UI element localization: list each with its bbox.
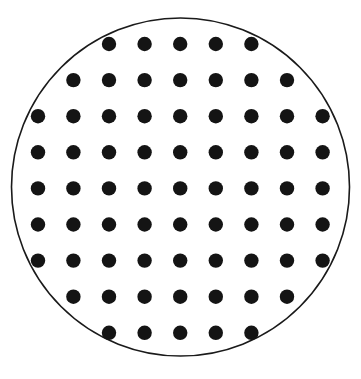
- grid-dot: [102, 145, 116, 159]
- grid-dot: [173, 253, 187, 267]
- figure-canvas: [0, 0, 361, 379]
- grid-dot: [173, 181, 187, 195]
- grid-dot: [209, 73, 223, 87]
- grid-dot: [66, 145, 80, 159]
- grid-dot: [31, 253, 45, 267]
- grid-dot: [315, 253, 329, 267]
- grid-dot: [315, 109, 329, 123]
- grid-dot: [137, 73, 151, 87]
- grid-dot: [209, 145, 223, 159]
- grid-dot: [102, 37, 116, 51]
- grid-dot: [244, 37, 258, 51]
- grid-dot: [209, 217, 223, 231]
- grid-dot: [31, 109, 45, 123]
- grid-dot: [102, 181, 116, 195]
- grid-dot: [280, 109, 294, 123]
- grid-dot: [173, 37, 187, 51]
- grid-dot: [102, 290, 116, 304]
- grid-dot: [209, 326, 223, 340]
- grid-dot: [31, 217, 45, 231]
- grid-dot: [173, 326, 187, 340]
- grid-dot: [102, 253, 116, 267]
- grid-dot: [31, 181, 45, 195]
- grid-dot: [315, 181, 329, 195]
- grid-dot: [137, 145, 151, 159]
- grid-dot: [280, 253, 294, 267]
- grid-dot: [137, 181, 151, 195]
- grid-dot: [280, 290, 294, 304]
- grid-dot: [31, 145, 45, 159]
- grid-dot: [66, 217, 80, 231]
- grid-dot: [209, 109, 223, 123]
- grid-dot: [244, 217, 258, 231]
- grid-dot: [280, 145, 294, 159]
- grid-dot: [244, 181, 258, 195]
- grid-dot: [66, 181, 80, 195]
- grid-dot: [280, 217, 294, 231]
- grid-dot: [102, 73, 116, 87]
- grid-dot: [102, 217, 116, 231]
- grid-dot: [315, 145, 329, 159]
- grid-dot: [280, 181, 294, 195]
- grid-dot: [66, 253, 80, 267]
- wafer-dot-grid-diagram: [0, 0, 361, 379]
- dot-grid-layer: [31, 37, 330, 340]
- grid-dot: [280, 73, 294, 87]
- grid-dot: [173, 290, 187, 304]
- grid-dot: [173, 145, 187, 159]
- grid-dot: [244, 326, 258, 340]
- grid-dot: [173, 217, 187, 231]
- grid-dot: [137, 326, 151, 340]
- grid-dot: [244, 145, 258, 159]
- grid-dot: [137, 109, 151, 123]
- grid-dot: [244, 109, 258, 123]
- grid-dot: [102, 326, 116, 340]
- grid-dot: [244, 253, 258, 267]
- grid-dot: [244, 73, 258, 87]
- grid-dot: [244, 290, 258, 304]
- grid-dot: [137, 217, 151, 231]
- grid-dot: [66, 109, 80, 123]
- grid-dot: [209, 253, 223, 267]
- grid-dot: [102, 109, 116, 123]
- grid-dot: [209, 37, 223, 51]
- grid-dot: [66, 290, 80, 304]
- grid-dot: [137, 37, 151, 51]
- grid-dot: [173, 109, 187, 123]
- grid-dot: [137, 290, 151, 304]
- grid-dot: [209, 181, 223, 195]
- grid-dot: [209, 290, 223, 304]
- grid-dot: [137, 253, 151, 267]
- grid-dot: [315, 217, 329, 231]
- grid-dot: [66, 73, 80, 87]
- grid-dot: [173, 73, 187, 87]
